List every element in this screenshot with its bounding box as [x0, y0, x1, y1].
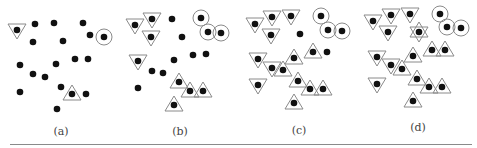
data-point	[423, 41, 441, 56]
data-point	[401, 8, 419, 23]
data-point	[382, 9, 400, 24]
data-point	[408, 70, 426, 85]
dot	[149, 16, 156, 23]
data-point	[304, 43, 322, 58]
data-point	[200, 24, 216, 40]
data-point	[17, 89, 24, 96]
dot	[200, 88, 207, 95]
dot	[255, 82, 262, 89]
dot	[30, 71, 37, 78]
data-point	[54, 106, 61, 113]
data-point	[314, 80, 332, 95]
dot	[32, 21, 39, 28]
dot	[442, 47, 449, 54]
data-point	[42, 74, 49, 81]
dot	[132, 22, 139, 29]
data-point	[135, 85, 142, 92]
dot	[388, 12, 395, 19]
dot	[444, 24, 451, 31]
dot	[51, 20, 58, 27]
data-point	[249, 53, 267, 68]
dot	[291, 100, 298, 107]
data-point	[433, 78, 451, 93]
dot	[269, 14, 276, 21]
dot	[176, 79, 183, 86]
data-point	[262, 29, 280, 44]
dot	[324, 49, 331, 56]
dot	[17, 62, 24, 69]
dot	[179, 34, 186, 41]
data-point	[263, 11, 281, 26]
dot	[255, 56, 262, 63]
data-point	[169, 16, 176, 23]
dot	[426, 84, 433, 91]
data-point	[87, 32, 94, 39]
panel-c	[246, 8, 350, 109]
data-point	[203, 51, 210, 58]
point-scatter-canvas	[0, 0, 477, 148]
dot	[288, 13, 295, 20]
data-point	[179, 34, 186, 41]
dot	[297, 31, 304, 38]
data-point	[282, 10, 300, 25]
data-point	[72, 56, 79, 63]
dot	[318, 13, 325, 20]
data-point	[404, 47, 422, 62]
dot	[437, 11, 444, 18]
dot	[374, 54, 381, 61]
dot	[374, 81, 381, 88]
dot	[410, 53, 417, 60]
dot	[69, 91, 76, 98]
dot	[135, 85, 142, 92]
dot	[53, 61, 60, 68]
data-point	[80, 20, 87, 27]
dot	[72, 56, 79, 63]
dot	[320, 86, 327, 93]
dot	[135, 58, 142, 65]
dot	[307, 86, 314, 93]
panel-a	[8, 20, 112, 113]
data-point	[30, 71, 37, 78]
dot	[17, 89, 24, 96]
data-point	[289, 72, 307, 87]
data-point	[143, 13, 161, 28]
data-point	[63, 85, 81, 100]
dot	[85, 56, 92, 63]
data-point	[142, 31, 160, 46]
dot	[171, 57, 178, 64]
data-point	[436, 41, 454, 56]
panel-label-c: (c)	[292, 124, 307, 137]
data-point	[126, 19, 144, 34]
dot	[187, 88, 194, 95]
data-point	[17, 62, 24, 69]
data-point	[58, 84, 65, 91]
dot	[252, 21, 259, 28]
data-point	[96, 29, 112, 45]
dot	[388, 62, 395, 69]
data-point	[149, 68, 156, 75]
panel-d	[364, 6, 469, 107]
data-point	[285, 49, 303, 64]
dot	[370, 18, 377, 25]
data-point	[85, 56, 92, 63]
dot	[171, 102, 178, 109]
dot	[87, 32, 94, 39]
dot	[269, 65, 276, 72]
data-point	[165, 96, 183, 111]
data-point	[368, 78, 386, 93]
data-point	[324, 49, 331, 56]
data-point	[249, 79, 267, 94]
dot	[149, 68, 156, 75]
data-point	[297, 31, 304, 38]
dot	[325, 27, 332, 34]
dot	[310, 49, 317, 56]
dot	[268, 32, 275, 39]
dot	[385, 29, 392, 36]
dot	[169, 16, 176, 23]
dot	[101, 34, 108, 41]
dot	[414, 76, 421, 83]
bottom-divider-line	[10, 144, 472, 145]
dot	[160, 70, 167, 77]
data-point	[129, 55, 147, 70]
dot	[291, 55, 298, 62]
